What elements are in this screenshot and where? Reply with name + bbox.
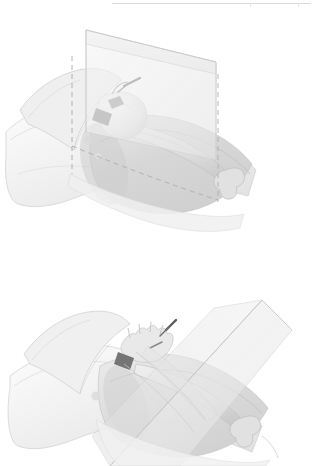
rule-tick-right — [298, 3, 299, 7]
trochanter-marker — [92, 392, 101, 401]
page-canvas — [0, 0, 312, 466]
surface-landmark — [95, 153, 101, 159]
figure-bottom-svg — [0, 286, 312, 466]
figure-bottom-hip-angled-plane — [0, 286, 312, 466]
fibula-edge — [262, 436, 278, 458]
rule-tick-left — [250, 3, 251, 7]
figure-top-svg — [0, 14, 312, 242]
figure-top-hip-vertical-plane — [0, 14, 312, 242]
top-horizontal-rule — [112, 3, 311, 4]
trochanter-marker — [84, 136, 93, 145]
